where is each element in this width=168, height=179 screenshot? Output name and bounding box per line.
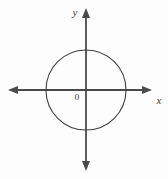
- x-axis-label: x: [156, 94, 162, 106]
- coordinate-plane-figure: y x 0: [0, 0, 168, 179]
- y-axis-bottom-arrow-icon: [82, 161, 90, 171]
- x-axis-right-arrow-icon: [142, 86, 152, 94]
- figure-container: y x 0: [0, 0, 168, 179]
- origin-label: 0: [75, 92, 80, 102]
- y-axis-label: y: [72, 6, 78, 18]
- x-axis-left-arrow-icon: [8, 86, 18, 94]
- y-axis-top-arrow-icon: [82, 8, 90, 18]
